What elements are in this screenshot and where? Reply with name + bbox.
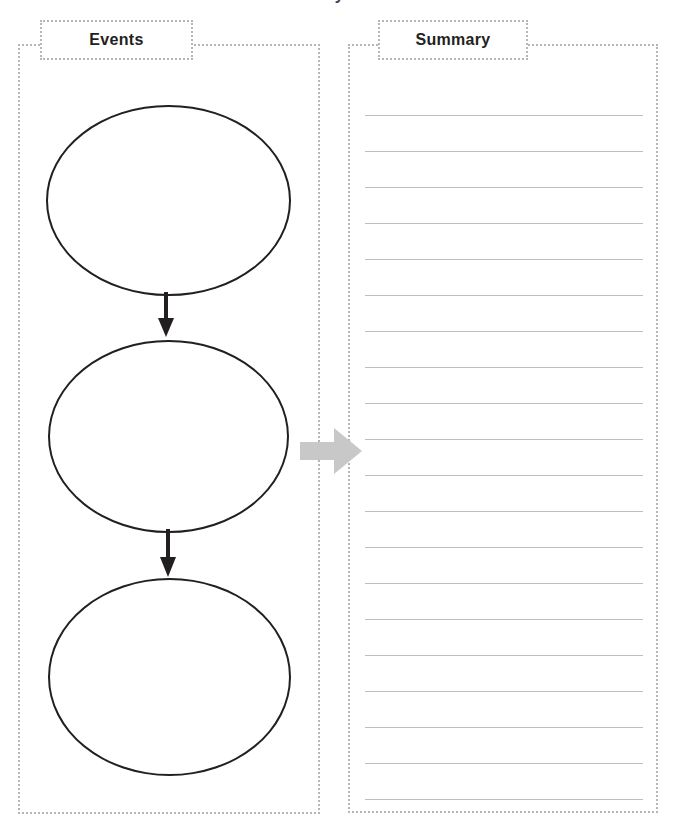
summary-writing-line[interactable] [365,547,643,548]
event-oval-1[interactable] [46,105,291,296]
summary-writing-line[interactable] [365,259,643,260]
summary-writing-line[interactable] [365,475,643,476]
summary-writing-line[interactable] [365,727,643,728]
worksheet-page: Find Text Evidence to Summarize the Stor… [0,0,676,829]
summary-writing-line[interactable] [365,331,643,332]
event-oval-3[interactable] [48,578,291,776]
summary-writing-line[interactable] [365,799,643,800]
flow-down-arrow-icon-2 [156,529,180,579]
summary-header-label: Summary [415,31,490,49]
summary-writing-line[interactable] [365,511,643,512]
summary-section-header: Summary [378,20,528,60]
summary-writing-line[interactable] [365,187,643,188]
summary-writing-line[interactable] [365,151,643,152]
page-title: Find Text Evidence to Summarize the Stor… [8,0,344,4]
summary-writing-lines[interactable] [365,100,643,800]
summary-writing-line[interactable] [365,583,643,584]
events-header-label: Events [89,31,143,49]
flow-down-arrow-icon-1 [154,292,178,340]
summary-writing-line[interactable] [365,763,643,764]
summary-writing-line[interactable] [365,115,643,116]
events-section-header: Events [40,20,193,60]
right-arrow-icon [300,428,362,474]
summary-writing-line[interactable] [365,691,643,692]
summary-writing-line[interactable] [365,367,643,368]
summary-writing-line[interactable] [365,655,643,656]
summary-writing-line[interactable] [365,619,643,620]
summary-writing-line[interactable] [365,223,643,224]
summary-writing-line[interactable] [365,439,643,440]
summary-writing-line[interactable] [365,403,643,404]
event-oval-2[interactable] [48,340,289,533]
summary-writing-line[interactable] [365,295,643,296]
